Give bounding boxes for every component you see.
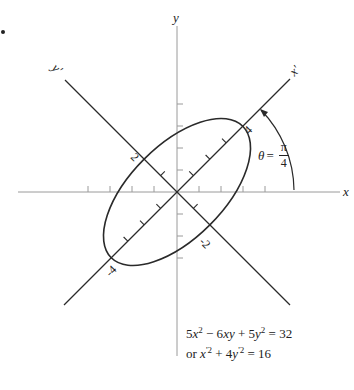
y-axis-label: y xyxy=(173,11,179,24)
eq2-plus: + 4 xyxy=(212,347,232,362)
y-axis-ticks xyxy=(177,104,183,258)
angle-fraction: π 4 xyxy=(279,140,289,171)
eq1-xy: xy xyxy=(223,326,235,341)
theta-symbol: θ xyxy=(258,148,264,164)
rotated-ellipse-figure: y x x' y' 4 2 -4 -2 θ = π 4 5x2 − 6xy + … xyxy=(0,0,354,390)
angle-denominator: 4 xyxy=(281,156,287,171)
bullet-marker xyxy=(1,30,5,34)
equation-line-1: 5x2 − 6xy + 5y2 = 32 xyxy=(186,322,292,342)
angle-numerator: π xyxy=(281,140,287,155)
eq1-minus: − 6 xyxy=(203,326,223,341)
angle-equals: = xyxy=(266,148,273,164)
eq1-rhs: = 32 xyxy=(265,326,292,341)
eq1-plus: + 5 xyxy=(235,326,255,341)
diagram-canvas xyxy=(0,0,354,390)
x-axis-label: x xyxy=(343,185,349,198)
equation-line-2: or x'2 + 4y'2 = 16 xyxy=(186,342,292,362)
angle-label: θ = π 4 xyxy=(258,140,289,171)
eq2-or: or xyxy=(186,347,200,362)
equation-block: 5x2 − 6xy + 5y2 = 32 or x'2 + 4y'2 = 16 xyxy=(186,322,292,363)
eq2-rhs: = 16 xyxy=(244,347,271,362)
